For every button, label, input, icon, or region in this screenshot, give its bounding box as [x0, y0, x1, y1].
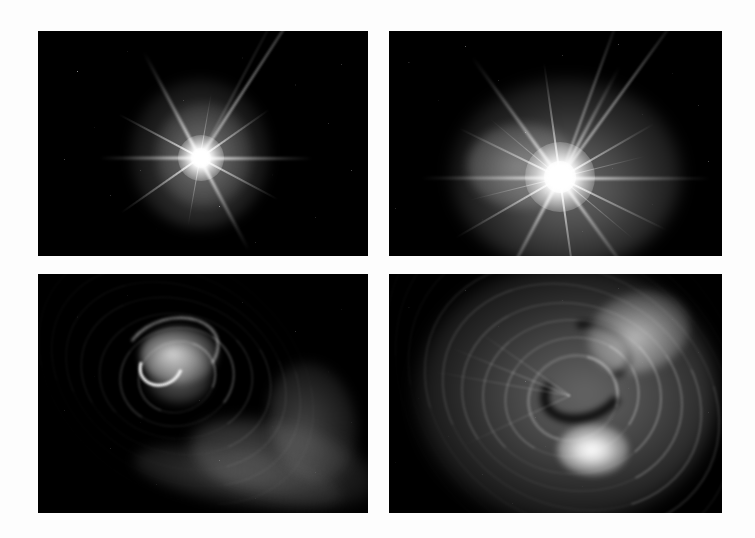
panel-top-right-canvas: [389, 31, 722, 256]
stellar-core-bright: [191, 148, 211, 168]
vortex-core-glow: [146, 348, 212, 404]
panel-bottom-right[interactable]: [389, 274, 722, 513]
figure-root: [0, 0, 755, 538]
panel-bottom-right-canvas: [389, 274, 722, 513]
panel-top-left[interactable]: [38, 31, 368, 256]
bright-knot: [557, 424, 629, 476]
panel-bottom-left-canvas: [38, 274, 368, 513]
panel-top-right[interactable]: [389, 31, 722, 256]
stellar-core-bright: [544, 161, 576, 193]
panel-bottom-left[interactable]: [38, 274, 368, 513]
panel-top-left-canvas: [38, 31, 368, 256]
